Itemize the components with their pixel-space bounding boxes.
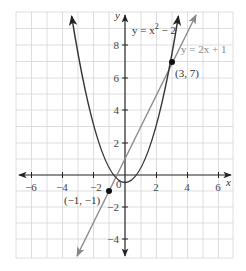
intersection-point-3-7 xyxy=(169,59,175,65)
y-axis-label: y xyxy=(114,9,120,21)
parabola-equation-label: y = x2 − 2 xyxy=(132,22,176,36)
x-tick-label: −2 xyxy=(90,181,102,193)
y-tick-label: −2 xyxy=(107,201,119,213)
x-tick-label: 6 xyxy=(215,181,221,193)
point-label-neg1-neg1: (−1, −1) xyxy=(64,194,101,207)
point-label-3-7: (3, 7) xyxy=(175,67,199,80)
y-tick-label: −4 xyxy=(107,233,119,245)
parabola-eq-tail: − 2 xyxy=(159,24,176,36)
coordinate-plane: −6 −4 −2 2 4 6 8 6 4 2 −2 −4 0 x y y = x… xyxy=(0,0,246,271)
y-tick-label: 8 xyxy=(114,39,120,51)
y-tick-label: 2 xyxy=(114,137,120,149)
x-tick-label: 4 xyxy=(184,181,190,193)
y-tick-label: 4 xyxy=(114,104,120,116)
x-tick-label: −4 xyxy=(56,181,68,193)
intersection-point-neg1-neg1 xyxy=(106,188,112,194)
x-tick-label: 2 xyxy=(153,181,159,193)
parabola-eq-base: y = x xyxy=(132,24,155,36)
origin-label: 0 xyxy=(116,178,122,190)
line-equation-label: y = 2x + 1 xyxy=(181,43,226,55)
x-tick-label: −6 xyxy=(25,181,37,193)
line-series-2x-plus-1 xyxy=(77,15,196,256)
x-axis-label: x xyxy=(225,176,231,188)
y-tick-label: 6 xyxy=(114,72,120,84)
